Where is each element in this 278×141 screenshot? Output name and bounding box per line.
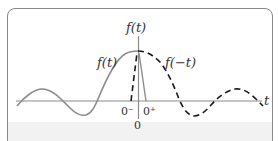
dashed-curve-label: f(−t) <box>164 55 196 70</box>
dashed-curve-f-neg-t <box>138 51 263 116</box>
solid-drop-0plus <box>139 53 146 101</box>
signal-diagram: f(t) f(t) f(−t) t 0⁻ 0⁺ 0 <box>0 0 278 141</box>
horizontal-axis-label: t <box>264 93 270 108</box>
dashed-rise-0minus <box>131 53 137 101</box>
vertical-axis-label: f(t) <box>125 20 146 35</box>
tick-zero-plus: 0⁺ <box>143 105 156 118</box>
tick-zero: 0 <box>134 119 141 132</box>
solid-curve-f-t <box>17 51 138 115</box>
solid-curve-label: f(t) <box>96 55 117 70</box>
tick-zero-minus: 0⁻ <box>121 105 134 118</box>
